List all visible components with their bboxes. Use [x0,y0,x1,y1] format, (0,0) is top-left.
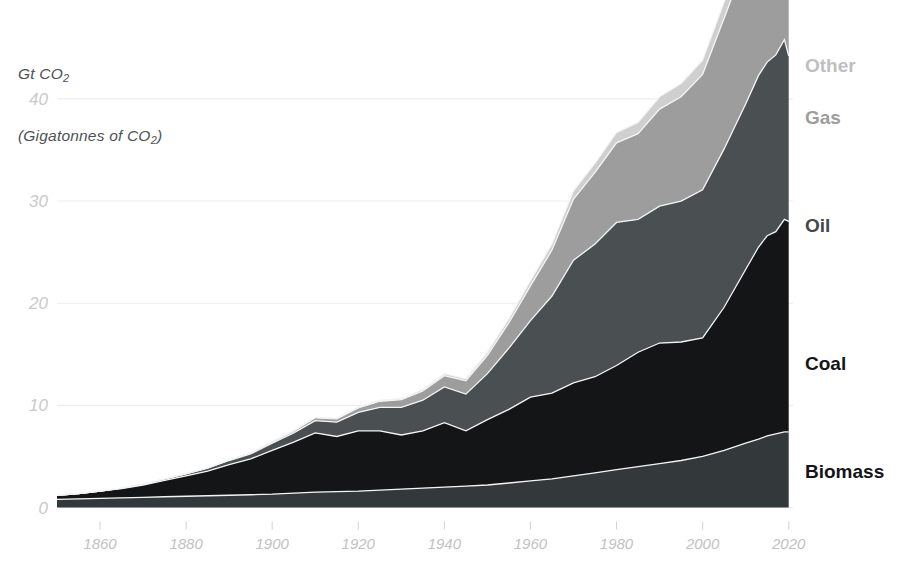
y-tick-label: 30 [29,192,48,211]
x-tick-label: 2020 [771,535,806,552]
x-tick-label: 1880 [169,535,203,552]
legend-label-other: Other [805,55,856,76]
x-tick-label: 1980 [600,535,634,552]
legend: OtherGasOilCoalBiomass [805,55,884,482]
x-tick-label: 1920 [342,535,376,552]
co2-area-chart: Gt CO2 (Gigatonnes of CO2) 010203040 186… [0,0,922,584]
legend-label-oil: Oil [805,215,830,236]
x-tick-label: 2000 [685,535,720,552]
y-axis-title-line1: Gt CO2 [18,65,69,82]
legend-label-coal: Coal [805,353,846,374]
y-tick-label: 10 [29,396,48,415]
y-tick-label: 0 [39,499,49,518]
x-axis-tick-labels: 186018801900192019401960198020002020 [83,535,806,552]
x-tick-label: 1860 [83,535,117,552]
x-tick-label: 1900 [256,535,290,552]
x-axis-ticks [100,522,789,530]
x-tick-label: 1960 [514,535,548,552]
y-axis-title: Gt CO2 (Gigatonnes of CO2) [18,26,162,188]
y-axis-title-line2: (Gigatonnes of CO2) [18,127,162,144]
legend-label-gas: Gas [805,107,841,128]
y-tick-label: 20 [28,294,48,313]
x-tick-label: 1940 [428,535,462,552]
legend-label-biomass: Biomass [805,461,884,482]
